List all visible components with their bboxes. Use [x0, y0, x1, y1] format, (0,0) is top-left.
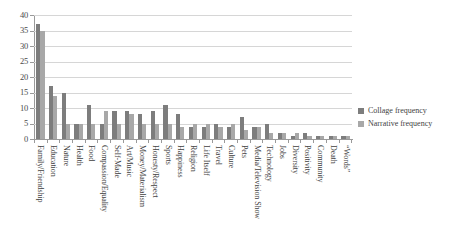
bar [53, 96, 57, 139]
x-axis-label: Art/Music [125, 145, 133, 177]
legend-item: Collage frequency [358, 106, 462, 115]
bar [193, 124, 197, 140]
x-label-slot: Compassion/Equality [98, 143, 111, 243]
legend-item: Narrative frequency [358, 119, 462, 128]
chart-legend: Collage frequencyNarrative frequency [358, 106, 462, 132]
x-axis-label: Travel [214, 145, 222, 165]
bar [180, 127, 184, 139]
x-label-slot: Technology [263, 143, 276, 243]
bar [206, 124, 210, 140]
bar-group [47, 15, 60, 139]
bar-group [174, 15, 187, 139]
x-axis-label: Food [87, 145, 95, 161]
x-axis-label: Religion [189, 145, 197, 172]
y-tick-label: 30 [6, 42, 28, 51]
bar-group [110, 15, 123, 139]
x-axis-label: Pets [240, 145, 248, 158]
bar-group [123, 15, 136, 139]
x-axis-label: Positivity [303, 145, 311, 175]
x-axis-label: Money/Materialism [138, 145, 146, 207]
bar-group [199, 15, 212, 139]
x-axis-label: Family/Friendship [36, 145, 44, 202]
bar-group [314, 15, 327, 139]
bar-group [225, 15, 238, 139]
x-axis-label: Compassion/Equality [100, 145, 108, 212]
x-label-slot: Jobs [276, 143, 289, 243]
y-tick-label: 5 [6, 119, 28, 128]
bar-series-container [34, 15, 352, 139]
bar [244, 130, 248, 139]
bar-group [238, 15, 251, 139]
bar-group [301, 15, 314, 139]
y-tick-label: 35 [6, 26, 28, 35]
y-tick-label: 10 [6, 104, 28, 113]
bar [155, 124, 159, 140]
bar-group [34, 15, 47, 139]
x-label-slot: Community [314, 143, 327, 243]
bar-group [161, 15, 174, 139]
x-axis-label: Death [329, 145, 337, 164]
bar [218, 127, 222, 139]
x-axis-labels: Family/FriendshipEducationNatureHealthFo… [34, 143, 352, 243]
bar [91, 124, 95, 140]
x-label-slot: Honesty/Respect [148, 143, 161, 243]
y-tick-label: 25 [6, 57, 28, 66]
y-tick-label: 0 [6, 135, 28, 144]
bar [79, 124, 83, 140]
bar-group [250, 15, 263, 139]
bar-group [187, 15, 200, 139]
x-axis-label: Culture [227, 145, 235, 168]
x-label-slot: Media/Television Show [250, 143, 263, 243]
x-label-slot: Life Itself [199, 143, 212, 243]
bar-group [72, 15, 85, 139]
x-axis-label: Happiness [176, 145, 184, 177]
bar-group [263, 15, 276, 139]
x-label-slot: Family/Friendship [34, 143, 47, 243]
legend-label: Narrative frequency [368, 119, 432, 128]
bar [117, 124, 121, 140]
bar [142, 124, 146, 140]
x-axis-label: Self-Made [113, 145, 121, 178]
legend-label: Collage frequency [368, 106, 427, 115]
x-label-slot: Education [47, 143, 60, 243]
bar [129, 114, 133, 139]
x-axis-label: Media/Television Show [253, 145, 261, 219]
bar [231, 124, 235, 140]
x-axis-label: Jobs [278, 145, 286, 159]
x-label-slot: Travel [212, 143, 225, 243]
bar-chart: 0510152025303540 Family/FriendshipEducat… [0, 0, 464, 248]
x-axis-label: Diversity [291, 145, 299, 174]
bar-group [148, 15, 161, 139]
x-label-slot: Diversity [288, 143, 301, 243]
bar-group [276, 15, 289, 139]
bar-group [288, 15, 301, 139]
x-axis-label: Health [75, 145, 83, 166]
bar-group [327, 15, 340, 139]
x-label-slot: Positivity [301, 143, 314, 243]
bar-group [212, 15, 225, 139]
bar-group [339, 15, 352, 139]
x-label-slot: Money/Materialism [136, 143, 149, 243]
y-tick-label: 40 [6, 11, 28, 20]
bar [168, 124, 172, 140]
x-axis-label: Life Itself [202, 145, 210, 176]
x-label-slot: Art/Music [123, 143, 136, 243]
x-label-slot: Nature [59, 143, 72, 243]
y-tick-label: 15 [6, 88, 28, 97]
bar-group [98, 15, 111, 139]
y-tick-label: 20 [6, 73, 28, 82]
x-label-slot: Happiness [174, 143, 187, 243]
legend-swatch-icon [358, 121, 364, 127]
x-label-slot: Self-Made [110, 143, 123, 243]
x-axis-label: Nature [62, 145, 70, 166]
bar-group [59, 15, 72, 139]
x-label-slot: Pets [238, 143, 251, 243]
x-axis-label: Sports [164, 145, 172, 165]
bar-group [136, 15, 149, 139]
bar-group [85, 15, 98, 139]
bar [257, 127, 261, 139]
x-label-slot: Death [327, 143, 340, 243]
x-axis-label: Honesty/Respect [151, 145, 159, 198]
legend-swatch-icon [358, 108, 364, 114]
x-axis-label: Education [49, 145, 57, 177]
